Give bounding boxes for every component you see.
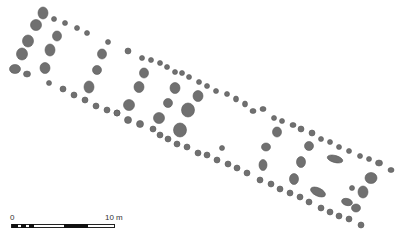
post-hole — [250, 109, 256, 114]
post-hole — [165, 136, 171, 142]
scale-segment — [12, 224, 18, 228]
post-hole — [31, 20, 42, 31]
post-hole — [85, 31, 90, 36]
post-hole — [23, 35, 34, 47]
post-hole — [182, 103, 195, 117]
post-hole — [358, 222, 364, 228]
post-hole — [244, 170, 250, 176]
post-hole — [306, 199, 312, 205]
post-hole — [197, 80, 202, 85]
post-hole — [165, 65, 170, 70]
post-hole — [154, 113, 165, 124]
post-hole — [388, 168, 394, 173]
post-hole — [260, 107, 266, 112]
post-hole — [134, 82, 144, 93]
post-hole — [170, 83, 180, 94]
post-hole — [124, 100, 135, 111]
post-hole — [93, 66, 102, 75]
post-hole — [164, 99, 173, 108]
scale-segment — [21, 224, 26, 228]
post-hole — [60, 86, 66, 92]
post-hole — [337, 145, 342, 150]
post-hole — [45, 44, 55, 56]
post-hole — [225, 161, 231, 167]
post-hole — [305, 142, 314, 151]
post-hole — [220, 146, 225, 151]
post-hole — [158, 61, 163, 66]
post-hole — [347, 149, 352, 154]
post-hole — [204, 152, 210, 158]
post-hole — [38, 7, 48, 19]
post-hole — [341, 197, 353, 207]
post-hole — [193, 91, 203, 102]
post-hole — [173, 70, 178, 75]
post-hole — [262, 143, 271, 151]
post-hole — [106, 40, 111, 45]
post-hole — [17, 48, 28, 60]
post-hole — [326, 154, 343, 165]
post-hole — [225, 92, 230, 97]
post-hole — [47, 81, 52, 86]
scale-segment — [64, 224, 88, 228]
scale-bar — [11, 224, 115, 228]
post-hole — [114, 110, 120, 116]
post-hole — [365, 173, 377, 184]
post-hole — [358, 186, 368, 198]
post-hole — [149, 58, 154, 63]
post-hole — [257, 177, 263, 183]
post-hole — [297, 194, 303, 200]
post-hole — [40, 63, 50, 74]
post-hole — [287, 190, 293, 196]
post-hole — [205, 84, 210, 89]
post-hole — [180, 71, 185, 76]
post-hole — [352, 204, 361, 212]
post-hole — [336, 213, 342, 219]
post-hole — [52, 17, 57, 22]
site-plan — [0, 0, 403, 239]
post-hole — [104, 107, 110, 113]
post-hole — [84, 81, 94, 93]
post-hole — [125, 117, 132, 124]
post-hole — [140, 56, 145, 61]
post-hole — [234, 165, 240, 171]
scale-start-label: 0 — [10, 214, 14, 222]
post-hole — [290, 123, 296, 128]
post-hole — [328, 140, 333, 145]
post-hole — [137, 121, 144, 128]
post-hole — [75, 26, 80, 31]
post-hole — [98, 49, 107, 59]
post-hole — [214, 157, 220, 163]
post-hole — [280, 119, 285, 124]
post-hole — [187, 75, 192, 80]
post-hole — [259, 160, 267, 171]
post-hole — [53, 31, 62, 41]
post-hole — [243, 101, 248, 107]
post-hole — [318, 205, 324, 211]
post-hole — [358, 154, 363, 159]
post-hole — [273, 127, 282, 137]
post-hole — [367, 157, 372, 162]
post-hole — [71, 92, 77, 98]
post-hole — [297, 157, 306, 168]
post-hole — [290, 174, 299, 185]
post-hole — [82, 97, 88, 103]
post-hole — [93, 103, 99, 109]
post-hole — [140, 68, 149, 78]
post-hole — [309, 130, 315, 136]
post-hole — [195, 150, 201, 156]
post-hole — [125, 48, 131, 54]
post-hole — [309, 185, 327, 199]
post-hole — [150, 126, 156, 132]
post-hole — [214, 89, 219, 94]
post-hole — [319, 137, 324, 142]
scale-end-label: 10 m — [105, 214, 123, 222]
post-hole — [346, 216, 352, 222]
post-hole — [174, 123, 187, 137]
post-hole — [10, 65, 21, 74]
post-hole — [184, 144, 190, 150]
post-hole — [174, 141, 180, 147]
post-hole — [234, 96, 239, 102]
post-hole — [157, 132, 163, 138]
post-hole — [63, 21, 68, 26]
post-hole — [277, 186, 283, 192]
